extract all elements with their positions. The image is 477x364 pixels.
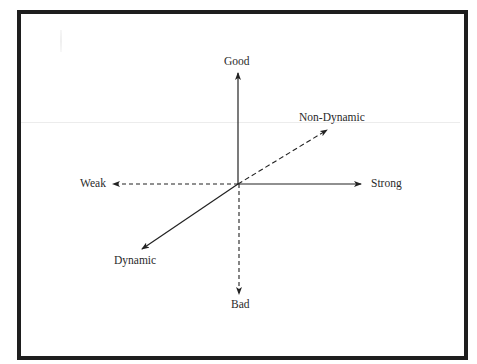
dynamic-axis-arrow [142,184,238,249]
bad-label: Bad [231,299,250,311]
dynamic-label: Dynamic [114,255,156,267]
weak-label: Weak [80,178,106,190]
non-dynamic-axis-arrow [238,130,327,184]
strong-label: Strong [371,178,402,190]
non-dynamic-label: Non-Dynamic [299,112,365,124]
good-label: Good [224,56,250,68]
